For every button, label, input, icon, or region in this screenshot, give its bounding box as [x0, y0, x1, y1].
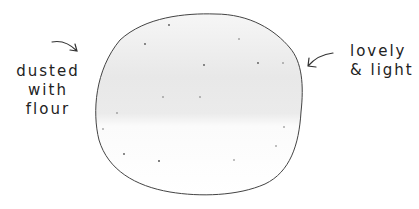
annotation-line: flour: [12, 100, 84, 119]
arrow-right-icon: [308, 53, 333, 67]
annotation-line: & light: [350, 61, 414, 80]
lovely-light-annotation: lovely & light: [350, 42, 414, 80]
annotation-line: lovely: [350, 42, 414, 61]
dough-ball-outline: [96, 14, 303, 195]
arrow-left-icon: [52, 41, 77, 51]
dusted-with-flour-annotation: dusted with flour: [12, 62, 84, 119]
annotation-line: dusted: [12, 62, 84, 81]
annotation-line: with: [12, 81, 84, 100]
